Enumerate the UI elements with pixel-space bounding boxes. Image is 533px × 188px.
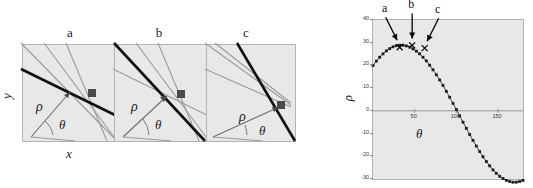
panel-b: ρ θ xyxy=(114,44,210,142)
data-point xyxy=(418,52,421,55)
x-tick-label: 50 xyxy=(404,113,424,119)
chart-axis-label-rho: ρ xyxy=(340,95,356,101)
y-tick-label: 10 xyxy=(352,83,369,89)
chart-plot-area xyxy=(373,20,523,179)
y-tick-label: 30 xyxy=(352,38,369,44)
y-tick xyxy=(370,133,373,134)
data-point xyxy=(508,180,511,183)
axis-label-x: x xyxy=(66,146,72,162)
figure-root: a b c y x xyxy=(0,0,533,188)
data-point xyxy=(478,150,481,153)
y-tick xyxy=(370,19,373,20)
data-point xyxy=(452,102,455,105)
hough-line-panels: a b c y x xyxy=(0,0,300,188)
svg-text:ρ: ρ xyxy=(35,99,43,114)
svg-text:θ: θ xyxy=(59,117,66,132)
data-point xyxy=(502,177,505,180)
x-tick-label: 100 xyxy=(445,113,465,119)
data-point xyxy=(442,84,445,87)
svg-text:ρ: ρ xyxy=(238,109,246,124)
data-point xyxy=(425,59,428,62)
svg-text:ρ: ρ xyxy=(130,99,138,114)
y-tick xyxy=(370,110,373,111)
panel-c-graphic: ρ θ xyxy=(207,45,295,141)
panel-c: ρ θ xyxy=(206,44,296,142)
data-point xyxy=(482,155,485,158)
data-point xyxy=(428,64,431,67)
data-point xyxy=(462,121,465,124)
axis-label-y: y xyxy=(0,93,15,99)
data-point xyxy=(498,175,501,178)
data-point xyxy=(432,68,435,71)
y-tick xyxy=(370,178,373,179)
data-point xyxy=(375,60,378,63)
panel-a: ρ θ xyxy=(22,44,118,142)
data-point xyxy=(505,179,508,182)
peak-label-a: a xyxy=(378,1,392,16)
data-point xyxy=(385,49,388,52)
data-point xyxy=(468,133,471,136)
data-point xyxy=(415,50,418,53)
chart-axis-label-theta: θ xyxy=(416,126,422,142)
data-point xyxy=(495,172,498,175)
data-point xyxy=(388,47,391,50)
data-point xyxy=(438,79,441,82)
x-tick-label: 150 xyxy=(487,113,507,119)
peak-label-c: c xyxy=(431,2,445,17)
arrow-head-b xyxy=(409,32,415,38)
data-point xyxy=(475,145,478,148)
data-point xyxy=(522,179,525,182)
y-tick xyxy=(370,87,373,88)
data-point xyxy=(472,139,475,142)
peak-marker-c xyxy=(422,45,428,51)
data-point xyxy=(405,44,408,47)
y-tick-label: -20 xyxy=(352,151,369,157)
svg-text:θ: θ xyxy=(155,117,162,132)
data-point xyxy=(455,108,458,111)
data-point xyxy=(448,96,451,99)
data-point xyxy=(422,56,425,59)
y-tick-label: -10 xyxy=(352,129,369,135)
panel-a-graphic: ρ θ xyxy=(23,45,117,141)
data-point xyxy=(515,181,518,184)
y-tick-label: 0 xyxy=(352,106,369,112)
panel-b-graphic: ρ θ xyxy=(115,45,209,141)
data-point xyxy=(392,45,395,48)
y-tick-label: -30 xyxy=(352,174,369,180)
y-tick-label: 20 xyxy=(352,60,369,66)
panel-letter-b: b xyxy=(149,25,169,41)
rho-theta-chart xyxy=(372,19,524,180)
data-point xyxy=(518,180,521,183)
data-point xyxy=(512,181,515,184)
data-point xyxy=(435,73,438,76)
data-point xyxy=(465,127,468,130)
y-tick xyxy=(370,42,373,43)
panel-letter-a: a xyxy=(60,25,80,41)
svg-text:θ: θ xyxy=(259,123,266,138)
data-point xyxy=(445,90,448,93)
y-tick xyxy=(370,64,373,65)
data-point xyxy=(378,56,381,59)
y-tick xyxy=(370,155,373,156)
data-point xyxy=(488,164,491,167)
data-point xyxy=(492,169,495,172)
y-tick-label: 40 xyxy=(352,15,369,21)
data-point xyxy=(485,160,488,163)
panel-letter-c: c xyxy=(236,25,256,41)
peak-label-b: b xyxy=(404,0,418,12)
data-point xyxy=(382,52,385,55)
